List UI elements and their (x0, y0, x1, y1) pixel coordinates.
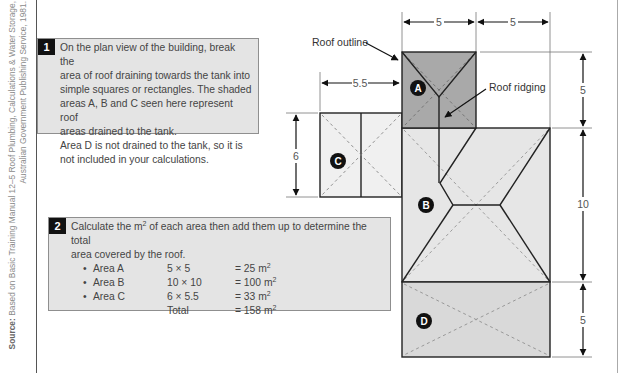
step-1-line: not included in your calculations. (60, 153, 252, 167)
dim-top-left-label: 5 (436, 16, 442, 28)
area-badge-a: A (410, 80, 426, 96)
calc-formula: 6 × 5.5 (167, 290, 235, 304)
svg-text:B: B (422, 200, 429, 211)
roof-outline-label: Roof outline (312, 36, 368, 48)
calc-row-area-a: Area A 5 × 5 = 25 m2 (71, 262, 384, 276)
step-2-intro: Calculate the m2 of each area then add t… (71, 220, 384, 248)
calc-result-value: = 100 m (235, 277, 273, 288)
calc-formula: 5 × 5 (167, 262, 235, 276)
superscript: 2 (273, 276, 277, 283)
svg-text:C: C (334, 156, 341, 167)
superscript: 2 (267, 262, 271, 269)
area-badge-d: D (416, 313, 432, 329)
step-1-number: 1 (38, 39, 55, 55)
calc-row-area-b: Area B 10 × 10 = 100 m2 (71, 276, 384, 290)
calc-result: = 33 m2 (235, 290, 315, 304)
calc-label: Area C (83, 290, 167, 304)
calc-formula: Total (167, 304, 235, 318)
step-1-line: areas A, B and C seen here represent roo… (60, 97, 252, 125)
step-2-intro-pre: Calculate the m (71, 221, 143, 232)
dim-right-d-label: 5 (580, 314, 586, 326)
svg-text:A: A (414, 83, 421, 94)
calc-label (83, 304, 167, 318)
step-1-line: areas drained to the tank. (60, 125, 252, 139)
step-1-line: On the plan view of the building, break … (60, 41, 252, 69)
calc-result: = 158 m2 (235, 304, 315, 318)
calc-label: Area A (83, 262, 167, 276)
dim-c-width-label: 5.5 (353, 77, 368, 89)
roof-ridging-label: Roof ridging (489, 81, 546, 93)
superscript: 2 (273, 304, 277, 311)
step-2-callout: 2 Calculate the m2 of each area then add… (48, 217, 391, 311)
calc-result-value: = 25 m (235, 263, 267, 274)
area-badge-b: B (418, 197, 434, 213)
step-2-intro-line-2: area covered by the roof. (71, 248, 384, 262)
superscript: 2 (267, 290, 271, 297)
dim-right-a-label: 5 (580, 84, 586, 96)
dim-c-height-label: 6 (293, 150, 299, 162)
step-2-number: 2 (49, 218, 66, 234)
calc-result: = 100 m2 (235, 276, 315, 290)
calc-result: = 25 m2 (235, 262, 315, 276)
step-1-line: Area D is not drained to the tank, so it… (60, 139, 252, 153)
area-c (320, 113, 402, 197)
calc-result-value: = 158 m (235, 305, 273, 316)
svg-text:D: D (420, 316, 427, 327)
calc-formula: 10 × 10 (167, 276, 235, 290)
dim-right-b-label: 10 (577, 198, 589, 210)
area-badge-c: C (330, 153, 346, 169)
roof-outline-callout: Roof outline (312, 36, 398, 60)
step-1-line: area of roof draining towards the tank i… (60, 69, 252, 83)
calc-result-value: = 33 m (235, 291, 267, 302)
calc-label: Area B (83, 276, 167, 290)
calc-row-total: Total = 158 m2 (71, 304, 384, 318)
step-1-line: simple squares or rectangles. The shaded (60, 83, 252, 97)
calc-row-area-c: Area C 6 × 5.5 = 33 m2 (71, 290, 384, 304)
step-1-callout: 1 On the plan view of the building, brea… (37, 38, 259, 134)
dim-top-right-label: 5 (510, 16, 516, 28)
